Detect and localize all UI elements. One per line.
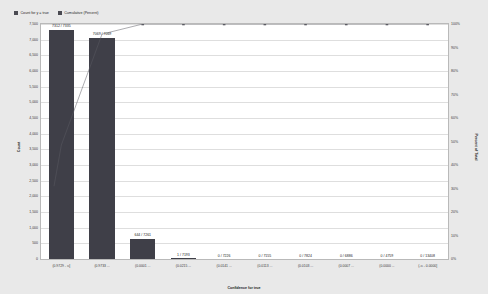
gridline (41, 259, 448, 260)
legend-item-count[interactable]: Count for y = true (14, 11, 49, 15)
y2-tick-label: 40% (451, 163, 458, 167)
bar-slot[interactable] (334, 24, 359, 259)
x-tick-label: (0.9729 - ∞] (52, 264, 70, 268)
legend-label-count: Count for y = true (21, 11, 49, 15)
y-tick-label: 4,000 (29, 132, 38, 136)
y-tick-label: 5,500 (29, 85, 38, 89)
y-tick-label: 0 (36, 257, 38, 261)
bar[interactable] (89, 38, 114, 259)
x-tick-label: (0.9733 ... (94, 264, 109, 268)
x-tick-label: (0.0141 ... (217, 264, 232, 268)
y-tick-label: 3,500 (29, 147, 38, 151)
legend-item-cumulative[interactable]: Cumulative (Percent) (58, 11, 99, 15)
bar-slot[interactable] (130, 24, 155, 259)
x-tick-label: (0.0113 ... (257, 264, 272, 268)
chart-container: Count for y = true Cumulative (Percent) … (0, 0, 488, 294)
bar-value-label: 7312 / 7335 (52, 24, 71, 28)
bar-slot[interactable] (171, 24, 196, 259)
bar[interactable] (130, 239, 155, 259)
y2-tick-label: 10% (451, 234, 458, 238)
y-tick-label: 500 (32, 241, 38, 245)
bar-value-label: 0 / 7226 (218, 254, 231, 258)
bar-slot[interactable] (252, 24, 277, 259)
x-axis-title: Confidence for true (0, 286, 488, 290)
x-tick-label: (0.0215 ... (176, 264, 191, 268)
y-tick-label: 6,500 (29, 53, 38, 57)
bar-value-label: 0 / 7155 (259, 254, 272, 258)
bar-slot[interactable] (415, 24, 440, 259)
y-tick-label: 5,000 (29, 100, 38, 104)
bar-slot[interactable] (49, 24, 74, 259)
plot-area: 05001,0001,5002,0002,5003,0003,5004,0004… (40, 23, 449, 260)
bar-slot[interactable] (374, 24, 399, 259)
y2-tick-label: 50% (451, 140, 458, 144)
chart-legend: Count for y = true Cumulative (Percent) (14, 11, 98, 15)
bar-value-label: 0 / 4759 (381, 254, 394, 258)
bar-value-label: 644 / 7261 (134, 233, 151, 237)
y-tick-label: 2,000 (29, 194, 38, 198)
square-marker-icon (14, 11, 18, 15)
square-marker-icon (58, 11, 62, 15)
y2-axis-title: Percent of Total (475, 134, 479, 161)
y2-tick-label: 90% (451, 46, 458, 50)
x-tick-label: (0.0000 ... (379, 264, 394, 268)
y-tick-label: 1,500 (29, 210, 38, 214)
bar-value-label: 7069 / 7069 (93, 32, 112, 36)
bar-slot[interactable] (212, 24, 237, 259)
x-tick-label: (0.0001 ... (135, 264, 150, 268)
y-tick-label: 7,000 (29, 38, 38, 42)
x-tick-label: (-∞ - 0.0000] (418, 264, 437, 268)
x-tick-label: (0.0103 ... (298, 264, 313, 268)
y2-tick-label: 0% (451, 257, 456, 261)
y2-tick-label: 30% (451, 187, 458, 191)
y-tick-label: 3,000 (29, 163, 38, 167)
y-tick-label: 2,500 (29, 179, 38, 183)
bar-series: 7312 / 73357069 / 7069644 / 72611 / 7193… (41, 24, 448, 259)
y-tick-label: 1,000 (29, 226, 38, 230)
bar-slot[interactable] (89, 24, 114, 259)
y-tick-label: 7,500 (29, 22, 38, 26)
bar[interactable] (49, 30, 74, 259)
bar-value-label: 0 / 7824 (299, 254, 312, 258)
bar[interactable] (171, 258, 196, 259)
y2-tick-label: 70% (451, 93, 458, 97)
y2-tick-label: 100% (451, 22, 460, 26)
bar-value-label: 0 / 6886 (340, 254, 353, 258)
legend-label-cumulative: Cumulative (Percent) (64, 11, 98, 15)
bar-value-label: 0 / 13408 (420, 254, 435, 258)
x-tick-label: (0.0007 ... (339, 264, 354, 268)
bar-value-label: 1 / 7193 (177, 253, 190, 257)
y2-tick-label: 60% (451, 116, 458, 120)
y2-tick-label: 80% (451, 69, 458, 73)
y-tick-label: 4,500 (29, 116, 38, 120)
y-axis-title: Count (17, 142, 21, 152)
y2-tick-label: 20% (451, 210, 458, 214)
bar-slot[interactable] (293, 24, 318, 259)
y-tick-label: 6,000 (29, 69, 38, 73)
